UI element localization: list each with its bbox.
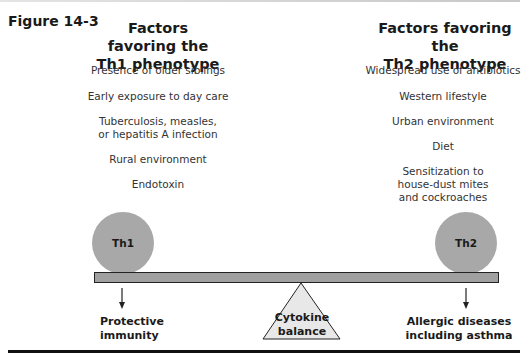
th2-outcome: Allergic diseases including asthma xyxy=(398,315,520,343)
th1-weight: Th1 xyxy=(92,212,154,274)
th2-weight: Th2 xyxy=(435,212,497,274)
down-arrow-icon xyxy=(119,288,125,309)
bottom-rule xyxy=(8,350,520,353)
th1-outcome: Protective immunity xyxy=(100,315,210,343)
balance-beam xyxy=(95,273,499,283)
th2-label: Th2 xyxy=(455,237,477,249)
down-arrow-icon xyxy=(463,288,469,309)
th1-label: Th1 xyxy=(112,237,134,249)
fulcrum-label: Cytokine balance xyxy=(262,311,342,339)
